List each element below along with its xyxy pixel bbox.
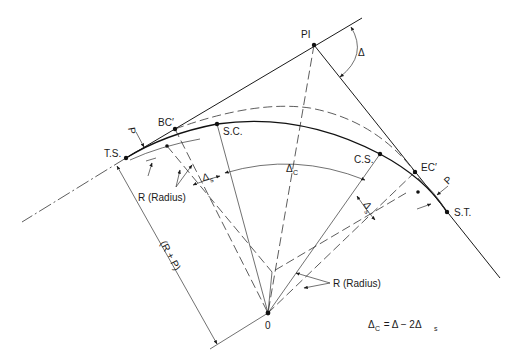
shifted-circular-curve bbox=[175, 106, 415, 172]
r-plus-p-label: (R + P) bbox=[158, 239, 183, 272]
p-dimension-left bbox=[136, 132, 156, 176]
back-tangent-line bbox=[22, 18, 362, 222]
st-point bbox=[445, 210, 449, 214]
ts-label: T.S. bbox=[104, 148, 121, 159]
svg-text:Δ: Δ bbox=[368, 319, 375, 330]
radius-leaders-left bbox=[176, 165, 192, 187]
bc-label: BC′ bbox=[158, 117, 174, 128]
pi-label: PI bbox=[301, 29, 310, 40]
radius-leaders-right bbox=[296, 273, 330, 288]
center-label: 0 bbox=[265, 320, 271, 331]
p-label-left: P bbox=[126, 126, 138, 135]
p-label-right: P bbox=[442, 174, 455, 187]
radius-label-right: R (Radius) bbox=[333, 278, 381, 289]
delta-s-label-left: Δ s bbox=[201, 170, 214, 185]
delta-angle-arc bbox=[340, 27, 357, 77]
ts-point bbox=[124, 156, 128, 160]
formula: Δ C = Δ − 2Δ s bbox=[368, 319, 438, 332]
cs-point bbox=[378, 152, 382, 156]
st-label: S.T. bbox=[454, 207, 471, 218]
ec-point bbox=[413, 170, 417, 174]
svg-text:s: s bbox=[434, 325, 438, 332]
sc-point bbox=[215, 122, 219, 126]
ec-label: EC′ bbox=[421, 162, 437, 173]
delta-s-label-right: Δ s bbox=[360, 200, 377, 216]
offset-point-right bbox=[416, 190, 420, 194]
spiral-curve-diagram: PI T.S. BC′ S.C. C.S. EC′ S.T. 0 Δ Δ C Δ… bbox=[0, 0, 513, 364]
svg-text:Δ: Δ bbox=[286, 163, 293, 174]
pi-point bbox=[312, 43, 316, 47]
svg-text:s: s bbox=[209, 176, 214, 184]
offset-point-left bbox=[165, 144, 169, 148]
sc-label: S.C. bbox=[223, 126, 242, 137]
delta-label: Δ bbox=[358, 47, 365, 58]
radius-label-left: R (Radius) bbox=[138, 192, 186, 203]
delta-c-label: Δ C bbox=[286, 163, 298, 176]
svg-text:C: C bbox=[375, 325, 380, 332]
svg-text:= Δ − 2Δ: = Δ − 2Δ bbox=[381, 319, 422, 330]
cs-label: C.S. bbox=[354, 154, 373, 165]
svg-text:C: C bbox=[293, 169, 298, 176]
center-point bbox=[266, 311, 271, 316]
forward-tangent-line bbox=[314, 45, 500, 278]
